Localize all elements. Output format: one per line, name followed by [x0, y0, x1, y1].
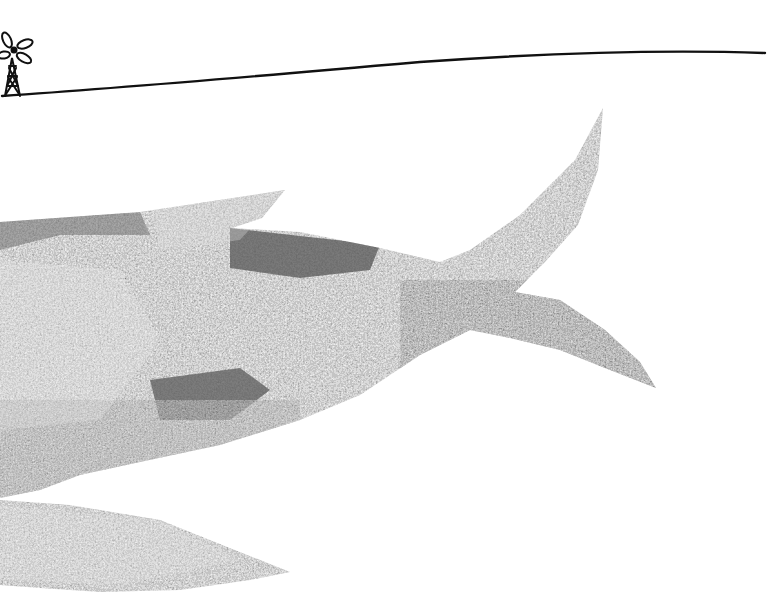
- illustration-canvas: [0, 0, 770, 615]
